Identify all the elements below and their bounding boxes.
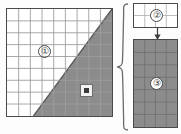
region-badge-one: ① xyxy=(38,45,51,58)
grouping-brace xyxy=(115,2,131,132)
source-grid-panel[interactable] xyxy=(6,8,113,117)
source-grid-lines xyxy=(7,9,112,116)
diagram-canvas: ① ② xyxy=(0,0,181,134)
region-badge-two: ② xyxy=(150,9,163,22)
selection-marker-icon[interactable] xyxy=(80,84,93,97)
region-badge-three: ③ xyxy=(150,77,163,90)
selection-marker-core xyxy=(84,88,89,93)
